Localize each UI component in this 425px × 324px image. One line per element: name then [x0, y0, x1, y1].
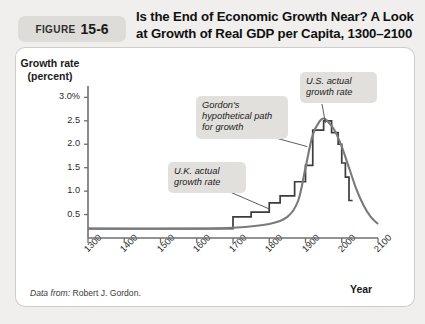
y-tick-label: 3.0% — [46, 91, 80, 101]
source-note-lead: Data from: — [30, 288, 70, 298]
x-axis-title: Year — [350, 283, 372, 295]
y-tick-label: 2.5 — [46, 115, 80, 125]
annotation-us-actual: U.S. actual growth rate — [300, 72, 377, 103]
figure-screenshot: FIGURE 15-6 Is the End of Economic Growt… — [0, 0, 425, 324]
source-note: Data from: Robert J. Gordon. — [30, 288, 141, 298]
y-tick-label: 1.5 — [46, 162, 80, 172]
annotation-gordon-hypothetical: Gordon's hypothetical path for growth — [196, 96, 288, 139]
y-tick-label: 1.0 — [46, 185, 80, 195]
annotation-uk-actual: U.K. actual growth rate — [168, 162, 246, 193]
y-axis-title: Growth rate (percent) — [8, 57, 92, 82]
y-tick-label: 2.0 — [46, 138, 80, 148]
figure-number-badge: FIGURE 15-6 — [18, 16, 126, 42]
source-note-text: Robert J. Gordon. — [70, 288, 141, 298]
figure-badge-word: FIGURE — [35, 24, 75, 35]
figure-title: Is the End of Economic Growth Near? A Lo… — [136, 9, 421, 42]
y-tick-label: 0.5 — [46, 209, 80, 219]
figure-badge-number: 15-6 — [81, 21, 109, 37]
